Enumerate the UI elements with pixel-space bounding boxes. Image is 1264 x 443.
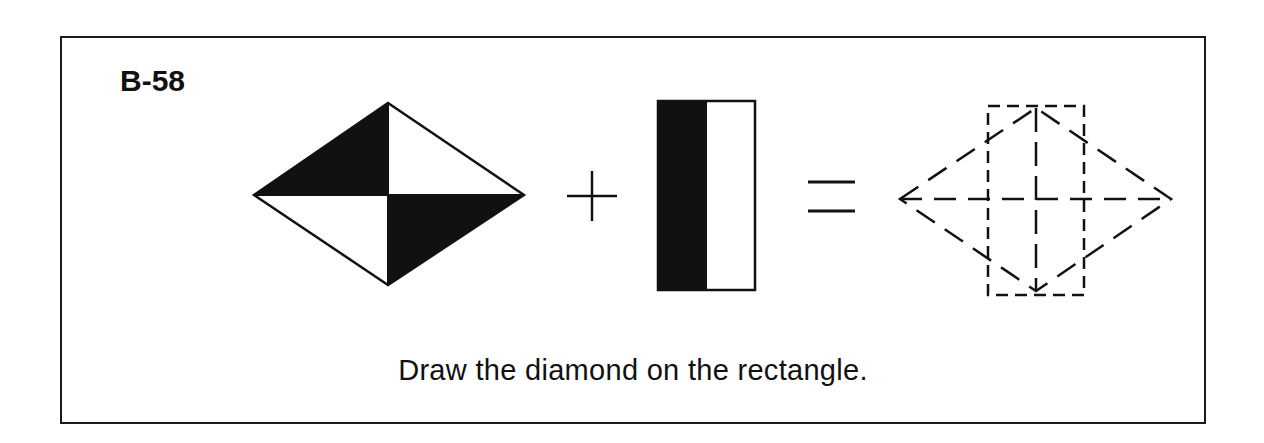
plus-sign-icon [567,171,617,221]
equals-sign-icon [808,182,855,211]
rectangle-figure [658,101,755,290]
result-figure [900,106,1171,295]
rectangle-black-half [658,101,707,290]
diamond-figure [254,103,524,285]
instruction-text: Draw the diamond on the rectangle. [60,354,1206,387]
